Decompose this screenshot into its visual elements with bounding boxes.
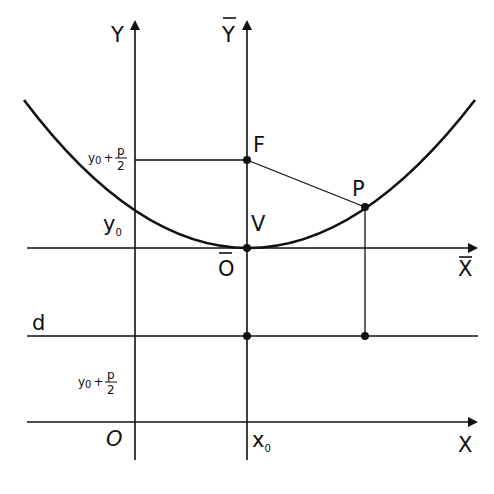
p-label: P (352, 177, 365, 201)
origin-bar-label: O (218, 257, 235, 281)
p-point (361, 203, 369, 211)
directrix-foot-p-point (361, 332, 369, 340)
y-axis-label: Y (110, 23, 124, 47)
directrix-foot-v-point (243, 332, 251, 340)
focus-to-p-segment (247, 160, 365, 207)
svg-text:p: p (117, 144, 125, 158)
focus-level-label: y0+ p 2 (88, 144, 127, 173)
y0-label: y0 (103, 212, 122, 238)
x-bar-axis-label: X (458, 257, 472, 281)
origin-label: O (106, 427, 123, 451)
vertex-point (243, 244, 251, 252)
parabola-curve (24, 100, 475, 248)
svg-text:y0+: y0+ (88, 151, 114, 166)
svg-text:y0+: y0+ (78, 375, 104, 390)
parabola-diagram: Y Y X X V F P O O d y0 x0 y0+ p 2 y0+ p … (0, 0, 494, 494)
focus-label: F (253, 133, 265, 157)
directrix-label: d (32, 311, 45, 335)
y-bar-axis-label: Y (221, 23, 235, 47)
directrix-level-label: y0+ p 2 (78, 368, 117, 397)
vertex-label: V (251, 212, 266, 236)
svg-text:p: p (107, 368, 115, 382)
svg-text:2: 2 (117, 159, 125, 173)
x0-label: x0 (252, 428, 271, 454)
svg-text:2: 2 (107, 383, 115, 397)
x-axis-label: X (458, 433, 472, 457)
focus-point (243, 156, 251, 164)
